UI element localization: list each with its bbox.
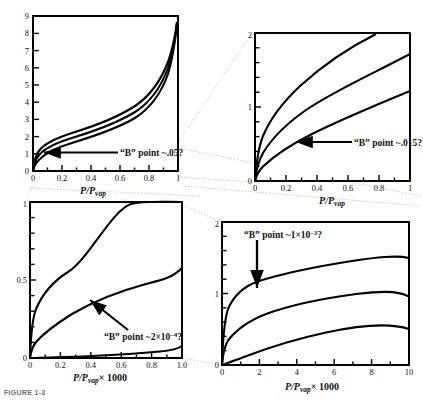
panel-bl-annot-tail: ? [177, 332, 182, 342]
svg-text:0.6: 0.6 [343, 183, 354, 193]
svg-text:6: 6 [25, 63, 29, 73]
panel-bottom-right: 012 02 46 810 “B” point ~1×10–3? [215, 219, 414, 394]
panel-bl-xlabel-sub: vap [88, 376, 99, 385]
panel-br-y-labels: 012 [215, 219, 219, 370]
panel-tr-xlabel: P/Pvap [319, 195, 345, 208]
svg-text:5: 5 [25, 80, 29, 90]
svg-text:2: 2 [248, 30, 252, 40]
svg-text:2: 2 [215, 219, 219, 229]
svg-text:0.4: 0.4 [312, 183, 323, 193]
svg-text:2: 2 [25, 132, 29, 142]
panel-br-x-labels: 02 46 810 [220, 367, 413, 377]
panel-tr-x-labels: 00.2 0.40.6 0.81 [253, 183, 412, 193]
panel-bottom-left: 00.51 00.2 0.40.6 0.81.0 “B” poin [16, 199, 187, 385]
figure-adsorption-isotherms: 01 23 45 67 89 00.2 0.40.6 0.81 [0, 0, 423, 405]
panel-bl-y-labels: 00.51 [16, 199, 27, 363]
svg-text:0.8: 0.8 [374, 183, 385, 193]
panel-top-right: 012 00.2 0.40.6 0.81 “B” point ~.015? [248, 30, 423, 208]
panel-br-xlabel-mult: × 1000 [311, 381, 339, 392]
svg-text:1: 1 [248, 102, 252, 112]
svg-text:0: 0 [215, 360, 219, 370]
svg-text:P/Pvap: P/Pvap [319, 195, 345, 208]
svg-text:1: 1 [25, 149, 29, 159]
svg-text:4: 4 [25, 97, 30, 107]
panel-bl-xlabel-main: P/P [73, 372, 89, 383]
panel-bl-xlabel-mult: × 1000 [99, 372, 127, 383]
panel-top-left: 01 23 45 67 89 00.2 0.40.6 0.81 [25, 11, 184, 198]
svg-text:4: 4 [295, 367, 300, 377]
svg-text:6: 6 [332, 367, 336, 377]
svg-text:0: 0 [248, 176, 252, 186]
panel-tl-x-labels: 00.2 0.40.6 0.81 [31, 173, 180, 183]
panel-tl-xlabel-sub: vap [95, 189, 106, 198]
svg-text:0.2: 0.2 [55, 360, 66, 370]
panel-bl-xlabel: P/Pvap× 1000 [73, 372, 127, 385]
panel-bl-annot-text: “B” point ~2×10 [104, 332, 171, 342]
svg-text:P/Pvap× 1000: P/Pvap× 1000 [285, 381, 339, 394]
svg-text:0.6: 0.6 [115, 173, 126, 183]
svg-text:0.6: 0.6 [116, 360, 127, 370]
svg-text:0.4: 0.4 [85, 360, 96, 370]
svg-text:0.8: 0.8 [144, 173, 155, 183]
svg-text:0.8: 0.8 [146, 360, 157, 370]
figure-caption: FIGURE 1-3 [4, 389, 46, 396]
svg-text:1.0: 1.0 [177, 360, 188, 370]
svg-text:10: 10 [405, 367, 414, 377]
svg-text:1: 1 [23, 199, 27, 209]
panel-tl-xlabel-main: P/P [80, 185, 96, 196]
svg-text:1: 1 [176, 173, 180, 183]
figure-svg: 01 23 45 67 89 00.2 0.40.6 0.81 [0, 0, 423, 405]
svg-text:1: 1 [408, 183, 412, 193]
svg-text:9: 9 [25, 11, 29, 21]
panel-tl-xlabel: P/Pvap [80, 185, 106, 198]
svg-text:0.5: 0.5 [16, 275, 27, 285]
panel-br-annot-tail: ? [317, 230, 322, 240]
svg-text:7: 7 [25, 46, 29, 56]
svg-text:8: 8 [25, 28, 29, 38]
panel-tl-y-labels: 01 23 45 67 89 [25, 11, 30, 176]
panel-br-xlabel-sub: vap [300, 385, 311, 394]
svg-text:P/Pvap: P/Pvap [80, 185, 106, 198]
svg-text:0: 0 [253, 183, 257, 193]
panel-br-annot-text: “B” point ~1×10 [244, 230, 311, 240]
svg-text:2: 2 [257, 367, 261, 377]
panel-tr-b-point-annotation: “B” point ~.015? [354, 138, 422, 148]
panel-tr-xlabel-sub: vap [334, 199, 345, 208]
panel-br-xlabel: P/Pvap× 1000 [285, 381, 339, 394]
svg-text:3: 3 [25, 114, 29, 124]
svg-text:0.4: 0.4 [86, 173, 97, 183]
svg-text:0: 0 [28, 360, 32, 370]
svg-text:1: 1 [215, 289, 219, 299]
panel-tr-xlabel-main: P/P [319, 195, 335, 206]
svg-text:P/Pvap× 1000: P/Pvap× 1000 [73, 372, 127, 385]
panel-tl-b-point-annotation: “B” point ~.05? [120, 148, 184, 158]
svg-text:8: 8 [369, 367, 373, 377]
panel-br-xlabel-main: P/P [285, 381, 301, 392]
svg-text:0: 0 [25, 166, 29, 176]
svg-text:0.2: 0.2 [281, 183, 292, 193]
svg-text:0: 0 [220, 367, 224, 377]
panel-bl-x-labels: 00.2 0.40.6 0.81.0 [28, 360, 187, 370]
svg-text:0: 0 [23, 353, 27, 363]
svg-text:0: 0 [31, 173, 35, 183]
svg-text:0.2: 0.2 [57, 173, 68, 183]
